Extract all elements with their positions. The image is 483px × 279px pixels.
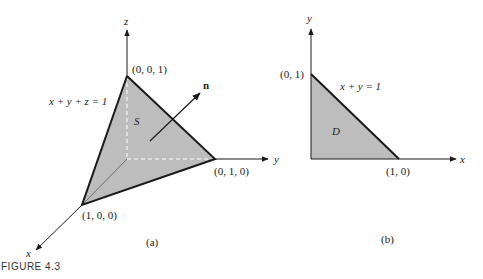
panel-a-sublabel: (a) [146,236,159,249]
figure-caption: FIGURE 4.3 [1,261,60,272]
x-axis-label: x [25,247,31,259]
panel-b-sublabel: (b) [381,233,394,246]
vertex-y-label-b: (0, 1) [280,68,304,81]
vertex-x-label: (1, 0, 0) [82,209,117,222]
figure-canvas: z y x (0, 0, 1) (0, 1, 0) (1, 0, 0) x + … [0,0,483,279]
vertex-x-label-b: (1, 0) [386,165,410,178]
z-axis-label: z [123,15,129,27]
plane-equation: x + y + z = 1 [48,95,107,107]
normal-label: n [203,79,209,91]
region-label: D [331,125,340,137]
x-axis-label-b: x [459,153,465,165]
surface-label: S [134,115,140,127]
vertex-y-label: (0, 1, 0) [214,165,249,178]
vertex-top-label: (0, 0, 1) [132,63,167,76]
panel-b: y x (0, 1) (1, 0) x + y = 1 D (b) [280,12,465,246]
x-axis [36,205,82,250]
y-axis-label: y [273,153,279,165]
y-axis-label-b: y [306,12,312,24]
line-equation: x + y = 1 [339,80,381,92]
panel-a: z y x (0, 0, 1) (0, 1, 0) (1, 0, 0) x + … [25,15,279,259]
